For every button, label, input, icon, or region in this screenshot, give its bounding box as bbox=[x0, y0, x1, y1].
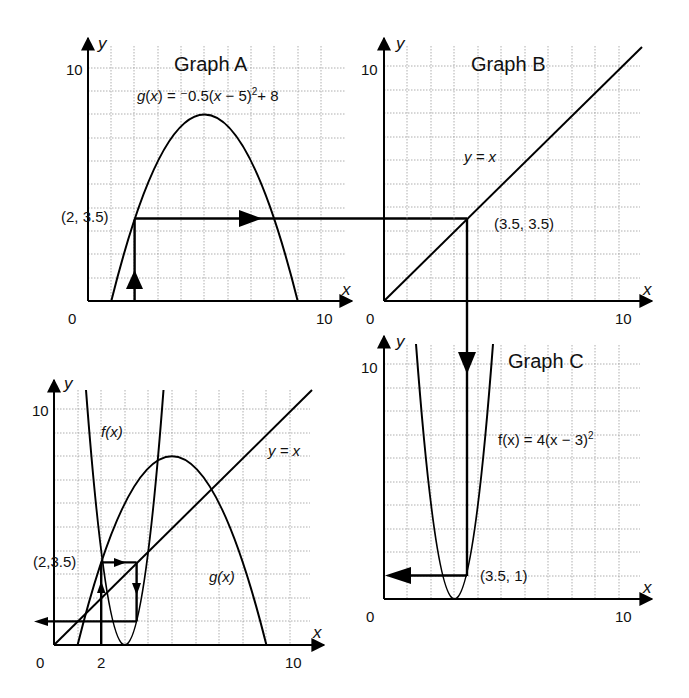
graph-combined-f-label: f(x) bbox=[101, 423, 123, 440]
graph-combined-down-arrow-icon bbox=[132, 583, 141, 595]
graph-a-grid bbox=[88, 46, 345, 301]
graph-a-up-arrow-icon bbox=[126, 270, 143, 289]
graph-a-g-curve bbox=[111, 115, 297, 301]
graph-b-origin: 0 bbox=[366, 310, 374, 327]
graph-a-x-label: x bbox=[341, 280, 351, 299]
graph-c-left-arrow-icon bbox=[385, 567, 411, 584]
graph-c-origin: 0 bbox=[366, 608, 374, 625]
graph-a-equation: g(x) = ⁻0.5(x − 5)2+ 8 bbox=[137, 86, 279, 104]
graph-combined-point-label: (2,3.5) bbox=[33, 553, 76, 570]
graph-b: y 10 0 10 x Graph B y = x (3.5, 3.5) bbox=[361, 34, 652, 345]
graph-c-point-label: (3.5, 1) bbox=[480, 567, 528, 584]
graph-c-y-max: 10 bbox=[361, 359, 378, 376]
graph-b-point-label: (3.5, 3.5) bbox=[494, 215, 554, 232]
graph-c-equation: f(x) = 4(x − 3)2 bbox=[498, 430, 594, 448]
graph-c: y 10 0 10 x Graph C f(x) = 4(x − 3)2 (3.… bbox=[361, 332, 652, 625]
graph-combined-x-two: 2 bbox=[97, 654, 105, 671]
graph-combined-line-label: y = x bbox=[267, 442, 301, 459]
graph-combined-g-label: g(x) bbox=[209, 568, 235, 585]
graph-a-origin: 0 bbox=[68, 310, 76, 327]
graph-a-title: Graph A bbox=[174, 53, 248, 75]
graph-combined-left-arrow-icon bbox=[34, 617, 48, 626]
graph-c-grid bbox=[384, 345, 640, 599]
graph-b-y-label: y bbox=[395, 34, 406, 53]
graph-b-x-max: 10 bbox=[615, 310, 632, 327]
graph-combined-y-max: 10 bbox=[32, 402, 49, 419]
cobweb-diagram: y 10 0 10 x Graph A g(x) = ⁻0.5(x − 5)2+… bbox=[0, 0, 689, 698]
graph-b-identity-line bbox=[384, 47, 642, 301]
graph-combined-x-max: 10 bbox=[285, 654, 302, 671]
graph-c-f-curve bbox=[416, 344, 493, 599]
graph-b-y-max: 10 bbox=[361, 61, 378, 78]
graph-a-y-max: 10 bbox=[66, 61, 83, 78]
graph-b-x-label: x bbox=[642, 280, 652, 299]
graph-a: y 10 0 10 x Graph A g(x) = ⁻0.5(x − 5)2+… bbox=[61, 34, 467, 327]
graph-a-point-label: (2, 3.5) bbox=[61, 208, 109, 225]
graph-b-line-label: y = x bbox=[463, 148, 497, 165]
graph-a-x-max: 10 bbox=[316, 310, 333, 327]
graph-combined-identity-line bbox=[54, 390, 312, 645]
graph-combined-origin: 0 bbox=[36, 654, 44, 671]
graph-b-title: Graph B bbox=[471, 53, 545, 75]
graph-combined-y-label: y bbox=[63, 374, 74, 393]
graph-c-x-max: 10 bbox=[615, 608, 632, 625]
graph-a-right-arrow-icon bbox=[239, 210, 262, 227]
graph-combined: y 10 0 2 10 x f(x) y = x g(x) (2,3.5) bbox=[32, 374, 324, 671]
graph-c-title: Graph C bbox=[508, 350, 584, 372]
graph-a-y-label: y bbox=[97, 34, 108, 53]
graph-combined-up-arrow-icon bbox=[97, 581, 106, 593]
graph-combined-right-arrow-icon bbox=[114, 558, 126, 567]
graph-combined-x-label: x bbox=[312, 623, 322, 642]
graph-c-x-label: x bbox=[642, 578, 652, 597]
graph-c-down-arrow-icon bbox=[458, 352, 476, 374]
graph-c-y-label: y bbox=[395, 332, 406, 351]
